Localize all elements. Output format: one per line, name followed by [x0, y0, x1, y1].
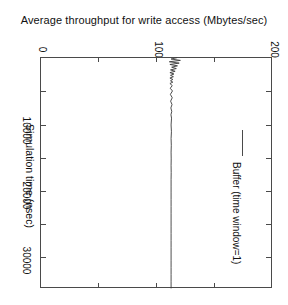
chart-legend: Buffer (time window=1)	[228, 128, 258, 278]
series-line-path	[169, 58, 180, 288]
value-axis-tick-label-100: 100	[153, 41, 164, 58]
value-axis-tick-label-200: 200	[269, 41, 280, 58]
time-axis-tick-label-30000: 30000	[21, 247, 32, 275]
chart-title: Average throughput for write access (Mby…	[21, 14, 268, 26]
legend-label-buffer: Buffer (time window=1)	[231, 162, 242, 264]
time-axis-label: Simulation time (nsec)	[24, 124, 36, 228]
value-axis-tick-label-0: 0	[37, 47, 48, 53]
chart-figure: Average throughput for write access (Mby…	[0, 0, 288, 305]
legend-line-sample	[242, 130, 243, 156]
